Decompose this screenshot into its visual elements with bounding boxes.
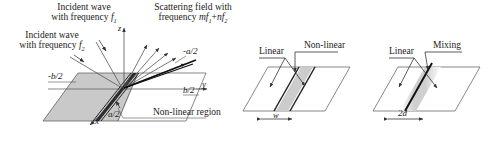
dimension-plus-b-label: b/2 (183, 86, 195, 96)
incident-wave-1-label: Incident wave with frequency f1 (36, 2, 132, 25)
y-axis-label: y (202, 80, 206, 90)
nonlinear-region-label: Non-linear region (153, 107, 221, 117)
z-axis-label: z (118, 25, 121, 34)
scattering-field-label: Scattering field with frequency mf1+nf2 (140, 2, 246, 25)
middle-panel-group (243, 52, 350, 119)
middle-width-label: w (273, 111, 279, 120)
middle-nonlinear-label: Non-linear (304, 40, 345, 50)
right-width-label: 2d (398, 109, 407, 119)
right-panel-group (373, 52, 480, 119)
dimension-plus-a-label: a/2 (108, 110, 120, 120)
dimension-minus-a-label: -a/2 (183, 47, 198, 57)
dimension-minus-b-label: -b/2 (48, 72, 63, 82)
right-linear-label: Linear (389, 46, 414, 56)
incident-arrowhead-2 (74, 55, 84, 62)
x-axis-label: x (95, 117, 99, 127)
figure-root: Incident wave with frequency f1 Incident… (0, 0, 500, 142)
incident-wave-2-label: Incident wave with frequency f2 (4, 30, 100, 53)
leader-minus-a (175, 56, 186, 63)
right-mixing-label: Mixing (433, 40, 461, 50)
middle-linear-label: Linear (259, 46, 284, 56)
